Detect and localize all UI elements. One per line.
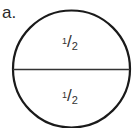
numerator: 1 [62,90,67,100]
denominator: 2 [72,94,78,106]
top-half-fraction: 1/2 [62,33,78,50]
numerator: 1 [62,36,67,46]
bottom-half-fraction: 1/2 [62,87,78,104]
fraction-circle [0,0,137,128]
denominator: 2 [72,40,78,52]
